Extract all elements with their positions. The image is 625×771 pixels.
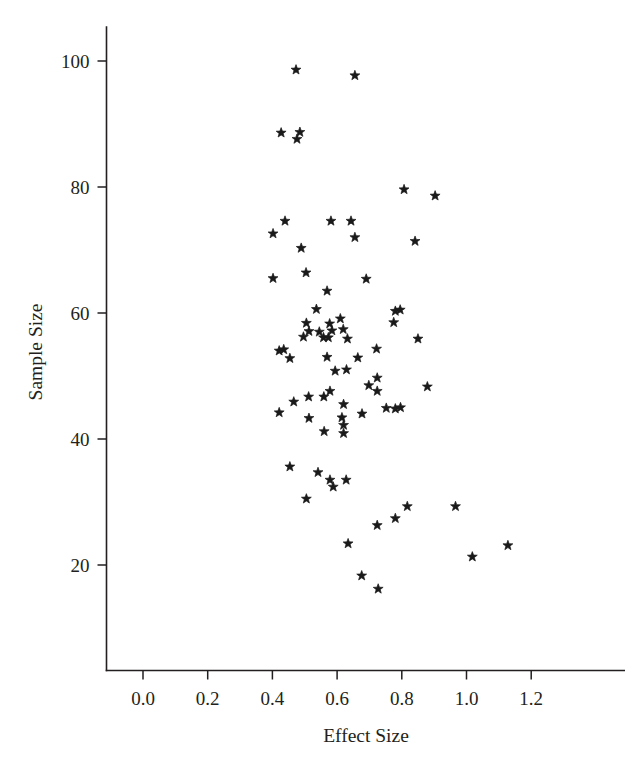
- data-point: [326, 216, 336, 225]
- data-point: [343, 538, 353, 547]
- x-axis-title: Effect Size: [323, 725, 409, 746]
- data-point: [301, 318, 311, 327]
- data-point: [381, 403, 391, 412]
- x-tick-label-0.4: 0.4: [261, 688, 285, 709]
- data-point: [291, 65, 301, 74]
- y-tick-label-group: 20406080100: [61, 51, 90, 576]
- data-point: [350, 70, 360, 79]
- data-point: [319, 426, 329, 435]
- data-point: [361, 274, 371, 283]
- data-point: [372, 386, 382, 395]
- data-point: [301, 267, 311, 276]
- y-tick-label-100: 100: [61, 51, 90, 72]
- data-point: [322, 286, 332, 295]
- x-tick-label-0.2: 0.2: [196, 688, 220, 709]
- data-point: [276, 128, 286, 137]
- y-tick-label-60: 60: [71, 303, 90, 324]
- data-point: [268, 228, 278, 237]
- data-point: [337, 412, 347, 421]
- data-point: [304, 413, 314, 422]
- data-point: [364, 380, 374, 389]
- y-tick-label-40: 40: [71, 429, 90, 450]
- x-tick-label-0.0: 0.0: [131, 688, 155, 709]
- x-tick-label-1.0: 1.0: [455, 688, 479, 709]
- data-point: [311, 304, 321, 313]
- data-point: [285, 462, 295, 471]
- x-tick-label-0.8: 0.8: [390, 688, 414, 709]
- data-point: [330, 366, 340, 375]
- data-point: [335, 313, 345, 322]
- data-point: [413, 334, 423, 343]
- x-tick-label-0.6: 0.6: [325, 688, 349, 709]
- x-tick-group: [143, 671, 531, 680]
- data-point: [422, 382, 432, 391]
- data-point: [274, 407, 284, 416]
- data-point: [467, 552, 477, 561]
- data-point: [372, 373, 382, 382]
- data-point: [389, 317, 399, 326]
- data-point: [373, 584, 383, 593]
- data-point: [338, 324, 348, 333]
- data-point: [357, 571, 367, 580]
- data-point: [285, 353, 295, 362]
- data-point: [353, 353, 363, 362]
- data-point: [410, 236, 420, 245]
- scatter-plot-figure: 20406080100 0.00.20.40.60.81.01.2 Effect…: [0, 0, 625, 771]
- data-point: [325, 319, 335, 328]
- data-point: [451, 501, 461, 510]
- data-point: [289, 397, 299, 406]
- x-tick-label-group: 0.00.20.40.60.81.01.2: [131, 688, 543, 709]
- data-point: [292, 134, 302, 143]
- y-tick-label-20: 20: [71, 555, 90, 576]
- data-point: [342, 365, 352, 374]
- data-point: [343, 334, 353, 343]
- data-point: [399, 184, 409, 193]
- data-point: [328, 482, 338, 491]
- scatter-plot-svg: 20406080100 0.00.20.40.60.81.01.2 Effect…: [0, 0, 625, 771]
- y-tick-label-80: 80: [71, 177, 90, 198]
- data-point: [296, 243, 306, 252]
- data-point: [304, 326, 314, 335]
- data-point: [357, 409, 367, 418]
- data-point-group: [268, 65, 513, 594]
- data-point: [503, 540, 513, 549]
- data-point: [402, 501, 412, 510]
- x-tick-label-1.2: 1.2: [519, 688, 543, 709]
- data-point: [372, 344, 382, 353]
- y-axis-title: Sample Size: [25, 304, 46, 401]
- data-point: [304, 392, 314, 401]
- data-point: [339, 428, 349, 437]
- data-point: [301, 494, 311, 503]
- data-point: [322, 352, 332, 361]
- data-point: [346, 216, 356, 225]
- data-point: [372, 520, 382, 529]
- data-point: [268, 273, 278, 282]
- data-point: [313, 467, 323, 476]
- data-point: [390, 513, 400, 522]
- data-point: [350, 232, 360, 241]
- data-point: [339, 399, 349, 408]
- data-point: [280, 216, 290, 225]
- data-point: [325, 386, 335, 395]
- y-tick-group: [98, 61, 107, 565]
- data-point: [430, 191, 440, 200]
- data-point: [341, 475, 351, 484]
